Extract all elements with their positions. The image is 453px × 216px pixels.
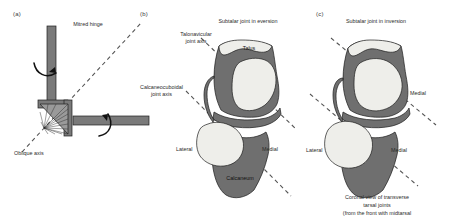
- panel-c-bone-diagram: [310, 38, 436, 198]
- panel-c-caption-line1: Coronal view of transverse tarsal joints: [345, 194, 409, 208]
- panel-b-tag: (b): [140, 11, 148, 17]
- panel-c-heading: Subtalar joint in inversion: [346, 18, 406, 25]
- panel-b-heading: Subtalar joint in eversion: [218, 18, 277, 25]
- calcaneocuboidal-axis-label-line1: Calcaneocuboidal: [140, 84, 183, 90]
- hinge-vertical-bar: [47, 26, 56, 102]
- oblique-axis-dashed-line: [22, 22, 142, 152]
- panel-c-medial-upper-label: Medial: [410, 90, 426, 97]
- calcaneocuboidal-axis-label: Calcaneocuboidal joint axis: [140, 84, 183, 98]
- panel-b-lateral-label: Lateral: [176, 146, 192, 153]
- talonavicular-axis-label-line2: joint axis: [186, 38, 207, 44]
- mitred-hinge-label: Mitred hinge: [73, 21, 103, 28]
- panel-c-medial-lower-label: Medial: [391, 147, 407, 154]
- panel-c-tag: (c): [316, 11, 324, 17]
- calcaneocuboidal-axis-label-line2: joint axis: [151, 91, 172, 97]
- lateral-margin: [204, 76, 214, 122]
- panel-a-tag: (a): [13, 11, 21, 17]
- panel-c-caption: Coronal view of transverse tarsal joints…: [339, 193, 415, 216]
- oblique-axis-label: Oblique axis: [14, 150, 44, 157]
- panel-a-hinge-diagram: [22, 22, 149, 152]
- calcaneum-label: Calcaneum: [226, 175, 253, 182]
- cuboid-facet-c: [325, 121, 373, 168]
- cuboid-facet: [197, 122, 244, 166]
- figure-canvas: (a) Mitred hinge Oblique axis (b) Subtal…: [0, 0, 453, 216]
- talus-label: Talus: [243, 45, 256, 52]
- panel-b-medial-label: Medial: [262, 146, 278, 153]
- talonavicular-axis-label-line1: Talonavicular: [180, 31, 211, 37]
- talus-articular-facet-c: [354, 59, 402, 111]
- panel-b-bone-diagram: [186, 38, 296, 198]
- talonavicular-axis-label: Talonavicular joint axis: [180, 31, 211, 45]
- panel-c-caption-line2: (from the front with midtarsal bones rem…: [343, 210, 411, 216]
- figure-artwork: [0, 0, 453, 216]
- panel-c-lateral-label: Lateral: [306, 147, 322, 154]
